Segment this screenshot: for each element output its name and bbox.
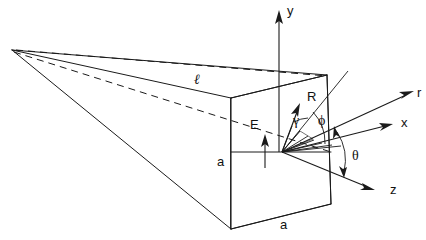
vector-label-R: R <box>307 89 316 104</box>
horn-edge-top-back <box>12 50 327 75</box>
coordinate-axes: y r x z <box>275 3 422 197</box>
angle-label-theta: θ <box>352 148 359 163</box>
axis-line-r <box>282 95 406 152</box>
vector-group-E: E <box>250 117 269 168</box>
angle-label-gamma: γ <box>292 113 299 128</box>
dimension-label-length: ℓ <box>194 72 200 87</box>
angle-label-phi: ϕ <box>318 113 325 128</box>
horn-body <box>12 50 331 229</box>
axis-label-z: z <box>390 182 397 197</box>
axis-arrow-z <box>360 183 375 190</box>
dimension-label-width-a: a <box>280 217 288 232</box>
angle-arcs: γ ϕ θ <box>292 112 359 178</box>
figure-container: y r x z R <box>0 0 426 240</box>
horn-edge-bottom-back-hidden <box>14 52 331 152</box>
waveguide-diagram: y r x z R <box>0 0 426 240</box>
axis-label-y: y <box>287 3 294 18</box>
vector-label-E: E <box>250 117 259 132</box>
axis-arrow-r <box>399 91 414 99</box>
arc-arrow-theta-start <box>333 126 340 139</box>
dimension-label-height-a: a <box>217 154 225 169</box>
axis-label-x: x <box>401 115 408 130</box>
axis-label-r: r <box>417 85 422 100</box>
